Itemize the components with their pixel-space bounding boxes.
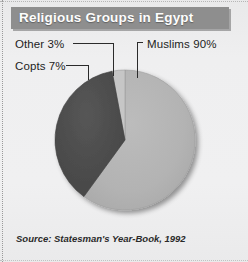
leader-line-other [73, 43, 113, 76]
pie-label-copts: Copts 7% [15, 60, 66, 72]
pie-chart-figure: Religious Groups in Egypt [0, 0, 248, 262]
pie-label-other: Other 3% [15, 38, 64, 50]
source-note: Source: Statesman's Year-Book, 1992 [16, 233, 186, 244]
pie-slices-group [55, 70, 195, 210]
pie-label-muslims: Muslims 90% [147, 38, 216, 50]
leader-line-copts [66, 65, 88, 80]
